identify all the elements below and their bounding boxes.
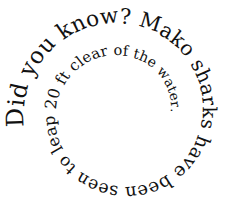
- spiral-character: d: [4, 80, 35, 101]
- spiral-character: w: [98, 2, 120, 29]
- spiral-svg: Didyouknow?Makosharkshavebeenseentoleap2…: [0, 0, 243, 214]
- spiral-character: n: [124, 182, 138, 203]
- spiral-character: o: [113, 42, 123, 58]
- spiral-character: s: [196, 118, 220, 131]
- spiral-character: p: [40, 115, 60, 127]
- spiral-character: .: [168, 108, 183, 113]
- spiral-character: ?: [119, 3, 132, 29]
- spiral-text-graphic: Did you know? Mako sharks have been seen…: [0, 0, 243, 214]
- spiral-character: f: [122, 43, 130, 59]
- spiral-character: D: [1, 107, 30, 127]
- spiral-character: k: [198, 106, 221, 118]
